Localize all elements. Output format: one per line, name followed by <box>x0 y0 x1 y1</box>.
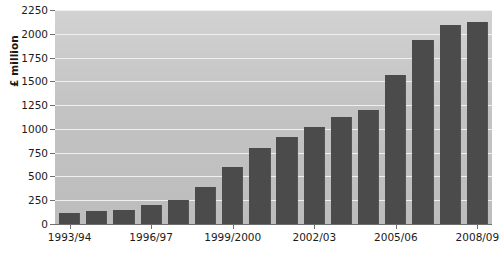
bar <box>113 210 134 224</box>
x-axis-line <box>55 224 492 225</box>
bar-slot <box>246 10 273 224</box>
x-axis-tick-mark <box>396 225 397 229</box>
bar <box>358 110 379 224</box>
x-axis-tick-label: 1993/94 <box>48 231 92 243</box>
bar-series <box>55 10 492 224</box>
bar-slot <box>437 10 464 224</box>
y-axis-tick-label: 500 <box>0 170 48 182</box>
bar <box>467 22 488 224</box>
x-axis-tick-mark <box>233 225 234 229</box>
x-axis-tick-label: 1999/2000 <box>204 231 261 243</box>
bar-slot <box>138 10 165 224</box>
x-axis-tick-label: 2002/03 <box>292 231 336 243</box>
y-axis-tick-label: 1250 <box>0 99 48 111</box>
bar-slot <box>110 10 137 224</box>
bar <box>276 137 297 224</box>
bar <box>331 117 352 224</box>
bar <box>195 187 216 224</box>
x-axis-tick-label: 2005/06 <box>374 231 418 243</box>
x-axis-tick-mark <box>477 225 478 229</box>
x-axis-tick-label: 2008/09 <box>456 231 499 243</box>
x-axis-tick-mark <box>70 225 71 229</box>
y-axis-tick-label: 2250 <box>0 4 48 16</box>
bar-slot <box>301 10 328 224</box>
bar <box>412 40 433 224</box>
bar <box>168 200 189 224</box>
bar-chart: £ million 025050075010001250150017502000… <box>0 0 499 260</box>
plot-area <box>55 10 492 224</box>
y-axis-tick-label: 1750 <box>0 52 48 64</box>
bar-slot <box>83 10 110 224</box>
y-axis-tick-label: 1000 <box>0 123 48 135</box>
bar <box>304 127 325 224</box>
bar <box>440 25 461 224</box>
bar <box>385 75 406 224</box>
bar-slot <box>192 10 219 224</box>
y-axis-tick-label: 2000 <box>0 28 48 40</box>
bar <box>59 213 80 224</box>
bar-slot <box>464 10 491 224</box>
bar-slot <box>382 10 409 224</box>
bar-slot <box>274 10 301 224</box>
bar-slot <box>219 10 246 224</box>
y-axis-tick-label: 250 <box>0 194 48 206</box>
bar <box>222 167 243 224</box>
x-axis-tick-mark <box>314 225 315 229</box>
y-axis-tick-label: 750 <box>0 147 48 159</box>
bar-slot <box>56 10 83 224</box>
bar-slot <box>355 10 382 224</box>
bar-slot <box>165 10 192 224</box>
bar <box>86 211 107 224</box>
y-axis-tick-label: 0 <box>0 218 48 230</box>
bar <box>141 205 162 224</box>
x-axis-tick-label: 1996/97 <box>129 231 173 243</box>
bar-slot <box>328 10 355 224</box>
x-axis-tick-mark <box>151 225 152 229</box>
bar-slot <box>409 10 436 224</box>
bar <box>249 148 270 224</box>
y-axis-tick-label: 1500 <box>0 75 48 87</box>
